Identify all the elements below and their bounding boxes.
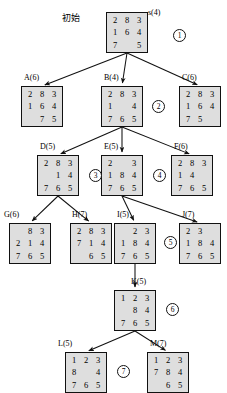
node-label-b: B(4) bbox=[104, 74, 119, 82]
tile-value: 3 bbox=[97, 225, 109, 237]
tile-value: 4 bbox=[133, 26, 145, 38]
tile-value: 4 bbox=[174, 366, 186, 378]
tile-value: 8 bbox=[129, 304, 141, 316]
tile-value: 1 bbox=[24, 100, 36, 112]
puzzle-node-k: 12384765 bbox=[114, 290, 156, 331]
puzzle-node-h: 28371465 bbox=[70, 223, 112, 264]
tile-value: 1 bbox=[174, 169, 186, 181]
tile-blank bbox=[117, 304, 129, 316]
tile-value: 7 bbox=[150, 366, 162, 378]
expansion-order-marker: 2 bbox=[152, 100, 165, 113]
tile-value: 8 bbox=[121, 14, 133, 26]
tile-value: 1 bbox=[68, 354, 80, 366]
tile-value: 1 bbox=[109, 26, 121, 38]
tile-value: 8 bbox=[24, 225, 36, 237]
tile-value: 6 bbox=[36, 100, 48, 112]
tile-value: 3 bbox=[128, 88, 140, 100]
tile-value: 8 bbox=[186, 157, 198, 169]
tile-value: 3 bbox=[36, 225, 48, 237]
tile-value: 8 bbox=[116, 169, 128, 181]
tile-value: 7 bbox=[174, 182, 186, 194]
tile-value: 3 bbox=[174, 354, 186, 366]
search-tree-figure: 2831647528316475283147652831647528314765… bbox=[0, 0, 227, 393]
tile-value: 2 bbox=[109, 14, 121, 26]
tile-value: 8 bbox=[116, 88, 128, 100]
puzzle-node-b: 28314765 bbox=[101, 86, 143, 127]
tile-value: 6 bbox=[194, 100, 206, 112]
tile-value: 7 bbox=[40, 182, 52, 194]
tile-value: 4 bbox=[64, 169, 76, 181]
tile-value: 4 bbox=[141, 237, 153, 249]
node-label-e: E(5) bbox=[104, 143, 118, 151]
tile-value: 6 bbox=[52, 182, 64, 194]
tile-blank bbox=[206, 225, 218, 237]
tile-value: 7 bbox=[104, 113, 116, 125]
tile-value: 1 bbox=[24, 237, 36, 249]
tile-value: 3 bbox=[133, 14, 145, 26]
tile-value: 3 bbox=[198, 157, 210, 169]
tile-value: 7 bbox=[36, 113, 48, 125]
tile-value: 3 bbox=[92, 354, 104, 366]
tile-value: 2 bbox=[129, 292, 141, 304]
tile-value: 1 bbox=[182, 100, 194, 112]
tile-value: 1 bbox=[117, 292, 129, 304]
node-label-d: D(5) bbox=[40, 143, 55, 151]
tile-value: 4 bbox=[206, 237, 218, 249]
tree-edge-d-g bbox=[32, 196, 58, 221]
puzzle-node-i: 23184765 bbox=[114, 223, 156, 264]
node-label-f: F(6) bbox=[174, 143, 188, 151]
node-label-g: G(6) bbox=[4, 211, 19, 219]
tile-value: 7 bbox=[104, 182, 116, 194]
tile-value: 1 bbox=[52, 169, 64, 181]
tile-value: 1 bbox=[104, 169, 116, 181]
tile-value: 2 bbox=[73, 225, 85, 237]
tile-blank bbox=[116, 100, 128, 112]
tile-value: 2 bbox=[182, 88, 194, 100]
tile-value: 4 bbox=[97, 237, 109, 249]
tile-value: 3 bbox=[128, 157, 140, 169]
tree-edge-k-l bbox=[89, 331, 135, 351]
tile-value: 3 bbox=[141, 225, 153, 237]
node-label-h: H(7) bbox=[72, 211, 87, 219]
tile-value: 8 bbox=[68, 366, 80, 378]
tile-value: 5 bbox=[36, 250, 48, 262]
tile-value: 5 bbox=[206, 250, 218, 262]
tile-value: 1 bbox=[182, 237, 194, 249]
tile-value: 8 bbox=[194, 88, 206, 100]
tile-blank bbox=[80, 366, 92, 378]
tile-value: 4 bbox=[186, 169, 198, 181]
tile-value: 6 bbox=[194, 250, 206, 262]
tile-blank bbox=[40, 169, 52, 181]
node-label-k: K(5) bbox=[131, 278, 146, 286]
tile-value: 2 bbox=[80, 354, 92, 366]
tile-value: 5 bbox=[48, 113, 60, 125]
puzzle-node-a: 28316475 bbox=[21, 86, 63, 127]
tile-value: 6 bbox=[121, 26, 133, 38]
puzzle-node-f: 28314765 bbox=[171, 155, 213, 196]
tile-value: 6 bbox=[116, 113, 128, 125]
expansion-order-marker: 1 bbox=[173, 29, 186, 42]
puzzle-node-l: 12384765 bbox=[65, 352, 107, 393]
expansion-order-marker: 4 bbox=[153, 169, 166, 182]
tile-value: 8 bbox=[194, 237, 206, 249]
tile-value: 6 bbox=[85, 250, 97, 262]
tile-value: 7 bbox=[117, 317, 129, 329]
tile-value: 5 bbox=[64, 182, 76, 194]
expansion-order-marker: 3 bbox=[89, 169, 102, 182]
tile-blank bbox=[206, 113, 218, 125]
tile-value: 2 bbox=[40, 157, 52, 169]
tile-value: 5 bbox=[128, 182, 140, 194]
node-label-l: L(5) bbox=[58, 340, 72, 348]
tile-value: 1 bbox=[104, 100, 116, 112]
tile-value: 4 bbox=[141, 304, 153, 316]
tile-value: 3 bbox=[64, 157, 76, 169]
tile-value: 4 bbox=[128, 169, 140, 181]
tile-value: 8 bbox=[162, 366, 174, 378]
tile-value: 3 bbox=[206, 88, 218, 100]
tile-value: 8 bbox=[36, 88, 48, 100]
tile-blank bbox=[198, 169, 210, 181]
tile-value: 6 bbox=[80, 379, 92, 391]
tile-value: 7 bbox=[12, 250, 24, 262]
node-label-i: I(5) bbox=[117, 211, 129, 219]
tile-blank bbox=[12, 225, 24, 237]
